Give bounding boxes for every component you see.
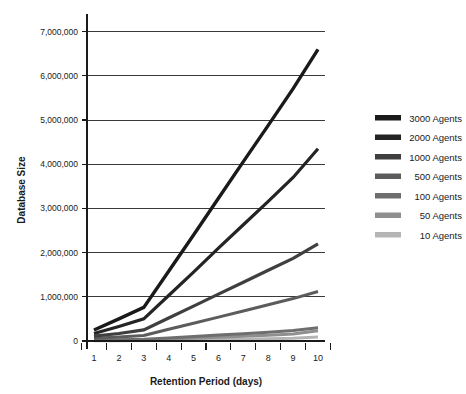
x-tick-label: 6 [216,353,221,363]
y-tick-label: 1,000,000 [40,292,78,302]
y-axis-title: Database Size [16,156,27,224]
legend-swatch [375,135,401,141]
y-axis-ticks: 7,000,0006,000,0005,000,0004,000,0003,00… [40,27,87,346]
legend-swatch [375,232,401,238]
x-tick-label: 2 [116,353,121,363]
gridlines [87,32,325,297]
legend-label: 3000 Agents [409,113,462,124]
x-axis-ticks: 12345678910 [82,343,331,363]
x-tick-label: 10 [313,353,323,363]
chart-canvas: 7,000,0006,000,0005,000,0004,000,0003,00… [0,0,466,394]
y-tick-label: 3,000,000 [40,203,78,213]
x-tick-label: 8 [266,353,271,363]
x-tick-label: 7 [241,353,246,363]
legend-swatch [375,154,401,160]
line-chart: 7,000,0006,000,0005,000,0004,000,0003,00… [0,0,466,394]
legend: 3000 Agents2000 Agents1000 Agents500 Age… [375,113,462,241]
legend-swatch [375,174,401,180]
y-tick-label: 5,000,000 [40,115,78,125]
x-tick-label: 9 [291,353,296,363]
x-tick-label: 3 [141,353,146,363]
x-tick-label: 5 [191,353,196,363]
legend-label: 1000 Agents [409,152,462,163]
series-line-2000-agents [94,149,318,334]
legend-label: 100 Agents [414,191,462,202]
legend-label: 10 Agents [420,230,463,241]
x-tick-label: 1 [91,353,96,363]
y-tick-label: 4,000,000 [40,159,78,169]
y-tick-label: 7,000,000 [40,27,78,37]
legend-swatch [375,115,401,121]
y-tick-label: 6,000,000 [40,71,78,81]
x-axis-title: Retention Period (days) [150,376,262,387]
legend-label: 500 Agents [414,171,462,182]
y-tick-label: 2,000,000 [40,248,78,258]
legend-label: 50 Agents [420,210,463,221]
legend-swatch [375,193,401,199]
x-tick-label: 4 [166,353,171,363]
y-tick-label: 0 [73,336,78,346]
legend-swatch [375,213,401,219]
series-line-3000-agents [94,49,318,330]
legend-label: 2000 Agents [409,132,462,143]
